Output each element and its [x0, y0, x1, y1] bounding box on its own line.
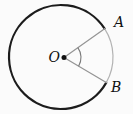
geometry-figure: O A B	[0, 0, 133, 114]
center-point-dot	[62, 55, 67, 60]
point-label-B: B	[110, 79, 121, 95]
center-label-O: O	[49, 49, 61, 65]
point-label-A: A	[112, 14, 124, 30]
circle-diagram: O A B	[0, 0, 133, 114]
